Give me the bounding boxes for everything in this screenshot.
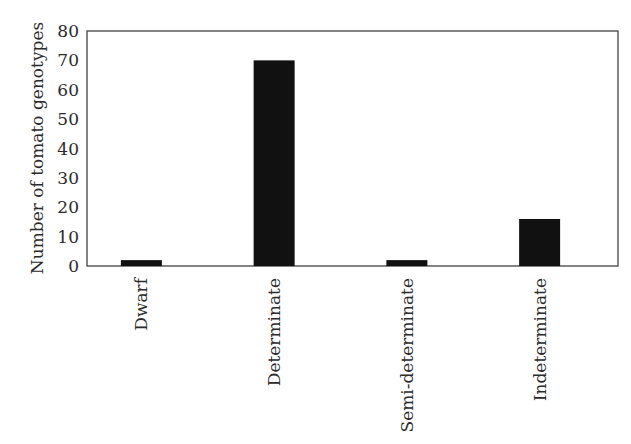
y-tick-label: 50: [57, 109, 79, 129]
y-tick-label: 80: [57, 21, 79, 41]
x-axis-category-labels: DwarfDeterminateSemi-determinateIndeterm…: [131, 276, 549, 432]
x-category-label: Determinate: [264, 278, 284, 386]
bar-semi-determinate: [386, 260, 427, 266]
x-category-label: Indeterminate: [530, 278, 550, 401]
bar-chart: 01020304050607080 DwarfDeterminateSemi-d…: [0, 0, 631, 444]
y-tick-label: 60: [57, 80, 79, 100]
y-tick-label: 30: [57, 168, 79, 188]
y-axis-ticks: 01020304050607080: [57, 21, 79, 276]
y-tick-label: 10: [57, 227, 79, 247]
bar-indeterminate: [519, 219, 560, 266]
y-axis-title: Number of tomato genotypes: [27, 22, 47, 274]
y-tick-label: 40: [57, 139, 79, 159]
y-tick-label: 70: [57, 50, 79, 70]
y-tick-label: 20: [57, 197, 79, 217]
x-category-label: Semi-determinate: [397, 278, 417, 433]
bar-dwarf: [121, 260, 162, 266]
y-tick-label: 0: [68, 256, 79, 276]
bars-group: [121, 60, 560, 266]
bar-determinate: [254, 60, 295, 266]
x-category-label: Dwarf: [131, 276, 151, 330]
